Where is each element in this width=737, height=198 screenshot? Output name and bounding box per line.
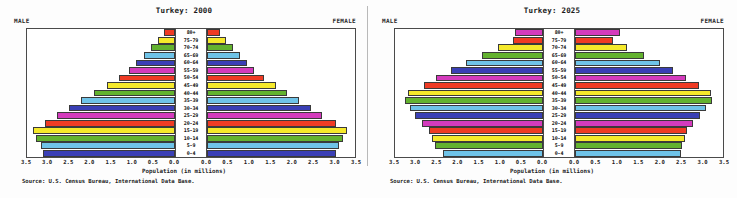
age-group-labels-2000: 80+75-7970-7465-6960-6455-5950-5445-4940… bbox=[175, 29, 207, 157]
age-group-labels-2025: 80+75-7970-7465-6960-6455-5950-5445-4940… bbox=[543, 29, 575, 157]
x-tick-male: 3.0 bbox=[410, 159, 420, 165]
bar-male-45-49 bbox=[107, 82, 176, 89]
age-group-label: 75-79 bbox=[543, 37, 575, 45]
x-tick-male: 2.5 bbox=[63, 159, 73, 165]
pyramid-row bbox=[395, 67, 543, 75]
bar-female-20-24 bbox=[207, 120, 336, 127]
bar-male-20-24 bbox=[422, 120, 543, 127]
source-note-2000: Source: U.S. Census Bureau, Internationa… bbox=[22, 178, 195, 184]
pyramid-row bbox=[27, 44, 175, 52]
pyramid-row bbox=[395, 74, 543, 82]
pyramid-row bbox=[575, 44, 723, 52]
pyramid-row bbox=[575, 134, 723, 142]
x-axis-title-2000: Population (in millions) bbox=[0, 168, 368, 174]
bar-female-0-4 bbox=[207, 150, 336, 157]
pyramid-row bbox=[207, 150, 355, 158]
bar-male-40-44 bbox=[94, 90, 175, 97]
pyramid-row bbox=[395, 52, 543, 60]
x-tick-male: 1.0 bbox=[127, 159, 137, 165]
bar-male-15-19 bbox=[33, 127, 175, 134]
bar-male-10-14 bbox=[36, 135, 175, 142]
population-pyramid-figure: Turkey: 2000 MALE FEMALE 80+75-7970-7465… bbox=[0, 0, 737, 198]
age-group-label: 30-34 bbox=[543, 104, 575, 112]
pyramid-row bbox=[27, 29, 175, 37]
bar-male-35-39 bbox=[405, 97, 543, 104]
x-tick-female: 3.5 bbox=[719, 159, 729, 165]
age-group-label: 25-29 bbox=[543, 112, 575, 120]
age-group-label: 10-14 bbox=[175, 134, 207, 142]
age-group-label: 70-74 bbox=[175, 44, 207, 52]
pyramid-row bbox=[575, 97, 723, 105]
x-tick-female: 1.5 bbox=[633, 159, 643, 165]
pyramid-row bbox=[207, 29, 355, 37]
bar-male-5-9 bbox=[41, 142, 175, 149]
bar-male-65-69 bbox=[144, 52, 175, 59]
bar-female-55-59 bbox=[575, 67, 673, 74]
age-group-label: 10-14 bbox=[543, 134, 575, 142]
x-tick-female: 2.0 bbox=[655, 159, 665, 165]
pyramid-row bbox=[575, 82, 723, 90]
age-group-label: 25-29 bbox=[175, 112, 207, 120]
bar-female-40-44 bbox=[575, 90, 711, 97]
pyramid-row bbox=[207, 97, 355, 105]
age-group-label: 55-59 bbox=[543, 67, 575, 75]
age-group-label: 15-19 bbox=[543, 127, 575, 135]
pyramid-row bbox=[207, 74, 355, 82]
pyramid-row bbox=[395, 44, 543, 52]
age-group-label: 75-79 bbox=[175, 37, 207, 45]
age-group-label: 45-49 bbox=[175, 82, 207, 90]
x-tick-female: 3.0 bbox=[698, 159, 708, 165]
x-tick-male: 3.0 bbox=[42, 159, 52, 165]
male-bars-2000 bbox=[27, 29, 175, 157]
x-tick-female: 0.5 bbox=[590, 159, 600, 165]
pyramid-row bbox=[575, 52, 723, 60]
x-tick-female: 3.0 bbox=[330, 159, 340, 165]
bar-male-45-49 bbox=[424, 82, 543, 89]
pyramid-row bbox=[395, 142, 543, 150]
bar-female-35-39 bbox=[207, 97, 299, 104]
bar-male-30-34 bbox=[410, 105, 543, 112]
x-axis-title-2025: Population (in millions) bbox=[368, 168, 736, 174]
pyramid-row bbox=[575, 150, 723, 158]
age-group-label: 40-44 bbox=[543, 89, 575, 97]
pyramid-row bbox=[27, 142, 175, 150]
age-group-label: 35-39 bbox=[175, 97, 207, 105]
age-group-label: 35-39 bbox=[543, 97, 575, 105]
pyramid-row bbox=[27, 119, 175, 127]
pyramid-row bbox=[395, 150, 543, 158]
x-tick-male: 3.5 bbox=[389, 159, 399, 165]
bar-female-80+ bbox=[207, 29, 220, 36]
pyramid-row bbox=[27, 150, 175, 158]
pyramid-row bbox=[395, 134, 543, 142]
x-tick-female: 3.5 bbox=[351, 159, 361, 165]
bar-male-75-79 bbox=[513, 37, 543, 44]
x-tick-male: 2.5 bbox=[431, 159, 441, 165]
pyramid-row bbox=[575, 127, 723, 135]
pyramid-row bbox=[575, 104, 723, 112]
bar-male-25-29 bbox=[415, 112, 543, 119]
pyramid-row bbox=[207, 44, 355, 52]
bar-male-50-54 bbox=[119, 75, 175, 82]
bar-male-25-29 bbox=[57, 112, 175, 119]
pyramid-row bbox=[575, 74, 723, 82]
x-tick-female: 1.5 bbox=[265, 159, 275, 165]
pyramid-row bbox=[575, 29, 723, 37]
pyramid-row bbox=[395, 29, 543, 37]
bar-female-5-9 bbox=[575, 142, 682, 149]
pyramid-row bbox=[575, 112, 723, 120]
bar-female-60-64 bbox=[207, 60, 247, 67]
pyramid-row bbox=[207, 104, 355, 112]
bar-male-40-44 bbox=[408, 90, 543, 97]
bar-female-5-9 bbox=[207, 142, 339, 149]
x-tick-male: 2.0 bbox=[84, 159, 94, 165]
chart-title-2025: Turkey: 2025 bbox=[368, 6, 736, 15]
bar-female-75-79 bbox=[575, 37, 613, 44]
pyramid-row bbox=[207, 112, 355, 120]
x-tick-female: 1.0 bbox=[244, 159, 254, 165]
bar-male-80+ bbox=[515, 29, 543, 36]
pyramid-row bbox=[395, 119, 543, 127]
bar-male-20-24 bbox=[45, 120, 175, 127]
bar-female-25-29 bbox=[575, 112, 700, 119]
bar-male-65-69 bbox=[482, 52, 543, 59]
pyramid-row bbox=[27, 52, 175, 60]
